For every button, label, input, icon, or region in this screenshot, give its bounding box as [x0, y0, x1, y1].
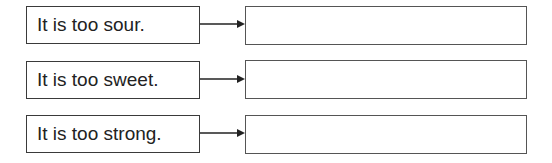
prompt-box: It is too strong.	[26, 115, 200, 153]
answer-box[interactable]	[245, 6, 527, 45]
arrow-icon	[200, 74, 245, 84]
arrow-icon	[200, 128, 245, 138]
prompt-text: It is too strong.	[37, 123, 162, 145]
arrow-icon	[200, 19, 245, 29]
prompt-text: It is too sour.	[37, 14, 145, 36]
prompt-text: It is too sweet.	[37, 69, 158, 91]
answer-box[interactable]	[245, 115, 527, 154]
prompt-box: It is too sweet.	[26, 61, 200, 99]
answer-box[interactable]	[245, 60, 527, 99]
prompt-box: It is too sour.	[26, 6, 200, 44]
